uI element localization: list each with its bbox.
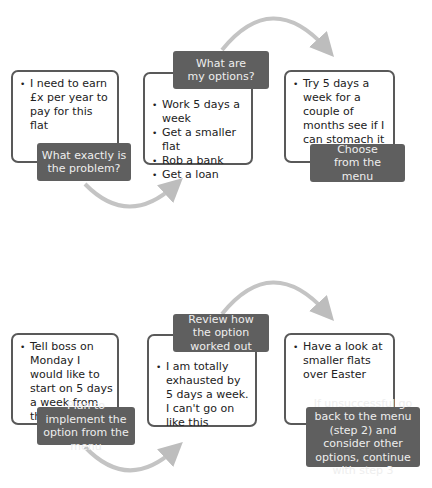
arrow-step1-to-step2 xyxy=(85,184,174,207)
arrow-step2-to-step3 xyxy=(222,18,326,50)
arrow-step5-to-step6 xyxy=(222,282,326,314)
step6-label: If unsuccessful go back to the menu (ste… xyxy=(306,407,420,467)
step4-label: Plan to implement the option from the me… xyxy=(37,407,135,445)
step2-bullet: Work 5 days a week xyxy=(149,98,247,126)
step6-bullet: Have a look at smaller flats over Easter xyxy=(290,340,389,382)
step3-label: Choose from the menu xyxy=(310,144,405,182)
step3-bullet: Try 5 days a week for a couple of months… xyxy=(290,77,389,147)
step5-label: Review how the option worked out xyxy=(173,314,269,352)
step2-label: What are my options? xyxy=(173,51,269,89)
step1-bullet: I need to earn £x per year to pay for th… xyxy=(17,77,113,133)
step2-bullet: Get a loan xyxy=(149,168,247,182)
step2-bullet: Rob a bank xyxy=(149,154,247,168)
step2-bullet: Get a smaller flat xyxy=(149,126,247,154)
step1-label: What exactly is the problem? xyxy=(37,143,131,181)
step5-bullet: I am totally exhausted by 5 days a week.… xyxy=(153,360,251,430)
